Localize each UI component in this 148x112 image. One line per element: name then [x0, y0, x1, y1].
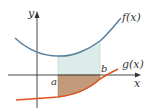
y-axis-label: y [27, 7, 35, 20]
lower-shaded-region [58, 75, 100, 97]
area-between-curves-diagram: y x f(x) g(x) a b [0, 0, 148, 112]
y-axis-arrow-icon [35, 11, 40, 18]
x-axis-label: x [134, 77, 141, 90]
b-label: b [101, 63, 107, 74]
a-label: a [51, 76, 57, 87]
f-curve [15, 18, 121, 56]
g-label: g(x) [122, 58, 144, 71]
f-label: f(x) [121, 11, 141, 24]
